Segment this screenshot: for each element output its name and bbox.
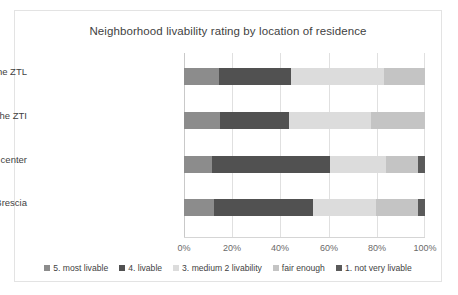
x-tick-20: 20%	[223, 243, 241, 253]
bar-segment	[214, 199, 313, 216]
bar-segment	[219, 68, 291, 85]
bar-row	[184, 156, 425, 173]
bar-segment	[291, 68, 384, 85]
legend-label: 1. not very livable	[345, 263, 412, 273]
bar-segment	[386, 156, 417, 173]
x-tick-60: 60%	[320, 243, 338, 253]
bar-segment	[384, 68, 425, 85]
bar-segment	[418, 156, 425, 173]
legend-swatch-icon	[173, 265, 179, 271]
legend-label: 5. most livable	[53, 263, 108, 273]
bar-segment	[371, 112, 425, 129]
y-axis-label-1: in the center but outside the ZTI	[0, 110, 27, 121]
bar-row	[184, 199, 425, 216]
legend-label: fair enough	[282, 263, 325, 273]
legend-item[interactable]: 5. most livable	[44, 263, 108, 273]
bar-segment	[184, 156, 212, 173]
chart-title: Neighborhood livability rating by locati…	[15, 25, 441, 37]
y-axis-label-0: in the ZTL	[0, 66, 27, 77]
bar-segment	[184, 68, 219, 85]
y-axis-label-3: outside city of Brescia	[0, 197, 27, 208]
legend-item[interactable]: 3. medium 2 livability	[173, 263, 262, 273]
legend-swatch-icon	[44, 265, 50, 271]
x-tick-40: 40%	[271, 243, 289, 253]
legend-swatch-icon	[273, 265, 279, 271]
x-axis-line	[184, 237, 425, 238]
bar-segment	[212, 156, 330, 173]
x-tick-80: 80%	[368, 243, 386, 253]
legend-label: 3. medium 2 livability	[182, 263, 262, 273]
x-tick-100: 100%	[413, 243, 436, 253]
legend-label: 4. livable	[128, 263, 162, 273]
x-tick-0: 0%	[177, 243, 190, 253]
bar-segment	[220, 112, 289, 129]
bar-segment	[289, 112, 371, 129]
bar-segment	[376, 199, 418, 216]
chart-container: Neighborhood livability rating by locati…	[14, 10, 442, 282]
bar-segment	[184, 112, 220, 129]
legend-swatch-icon	[336, 265, 342, 271]
legend-swatch-icon	[119, 265, 125, 271]
legend-item[interactable]: fair enough	[273, 263, 325, 273]
bar-segment	[313, 199, 376, 216]
bar-row	[184, 112, 425, 129]
plot-area	[184, 53, 425, 238]
bar-row	[184, 68, 425, 85]
bar-segment	[184, 199, 214, 216]
bar-segment	[330, 156, 387, 173]
chart-legend: 5. most livable4. livable3. medium 2 liv…	[15, 263, 441, 273]
legend-item[interactable]: 4. livable	[119, 263, 162, 273]
legend-item[interactable]: 1. not very livable	[336, 263, 412, 273]
y-axis-label-2: in Brescia but outside the center	[0, 154, 27, 165]
bar-segment	[418, 199, 425, 216]
